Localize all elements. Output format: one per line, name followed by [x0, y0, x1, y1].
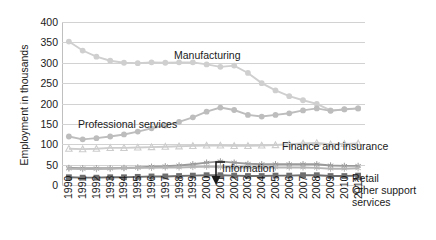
x-axis-tick-label: 2003 [241, 186, 254, 226]
x-axis-tick-label: 2008 [310, 186, 323, 226]
annotation-professional-services: Professional services [78, 118, 177, 130]
y-axis-tick-label: 0 [22, 180, 58, 190]
annotation-other-support-services-line2: services [352, 196, 391, 208]
annotation-finance-and-insurance: Finance and insurance [282, 140, 388, 152]
x-axis-tick-label: 1990 [62, 186, 75, 226]
x-axis-tick-label: 1991 [76, 186, 89, 226]
annotation-manufacturing: Manufacturing [174, 49, 241, 61]
x-axis-tick-label: 2000 [200, 186, 213, 226]
y-axis-tick-label: 350 [22, 37, 58, 47]
x-axis-tick-label: 2006 [283, 186, 296, 226]
x-axis-tick-label: 1995 [131, 186, 144, 226]
y-axis-tick-label: 50 [22, 160, 58, 170]
x-axis-tick-label: 1992 [90, 186, 103, 226]
y-axis-tick-labels: 400350300250200150100500 [22, 0, 58, 240]
x-axis-tick-label: 2001 [214, 186, 227, 226]
y-axis-tick-label: 250 [22, 78, 58, 88]
y-axis-tick-label: 300 [22, 58, 58, 68]
y-axis-tick-label: 150 [22, 119, 58, 129]
y-axis-tick-label: 100 [22, 139, 58, 149]
annotation-information: Information [222, 162, 275, 174]
x-axis-tick-label: 2004 [255, 186, 268, 226]
annotation-retail: Retail [352, 172, 379, 184]
employment-line-chart: Employment in thousands 4003503002502001… [0, 0, 436, 240]
annotation-other-support-services-line1: Other support [352, 184, 416, 196]
x-axis-tick-label: 1994 [117, 186, 130, 226]
x-axis-tick-label: 2005 [269, 186, 282, 226]
x-axis-tick-label: 1993 [104, 186, 117, 226]
y-axis-tick-label: 400 [22, 17, 58, 27]
x-axis-tick-label: 2009 [324, 186, 337, 226]
x-axis-tick-label: 1998 [173, 186, 186, 226]
x-axis-tick-label: 2002 [228, 186, 241, 226]
x-axis-tick-labels: 1990199119921993199419951996199719981999… [62, 186, 365, 240]
x-axis-tick-label: 1999 [186, 186, 199, 226]
x-axis-tick-label: 2007 [297, 186, 310, 226]
x-axis-tick-label: 2010 [338, 186, 351, 226]
x-axis-tick-label: 1997 [159, 186, 172, 226]
information-arrow-icon [205, 160, 227, 186]
y-axis-tick-label: 200 [22, 99, 58, 109]
x-axis-tick-label: 1996 [145, 186, 158, 226]
